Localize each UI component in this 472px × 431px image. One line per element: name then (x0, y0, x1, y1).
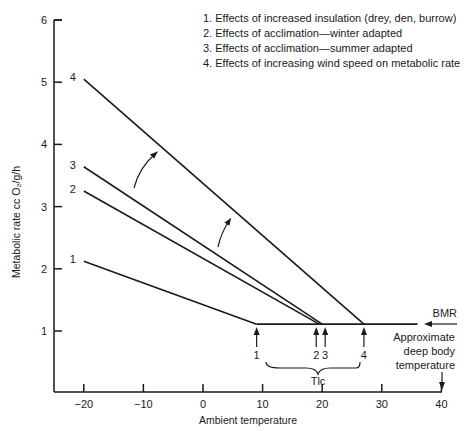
y-tick-label: 5 (41, 76, 47, 88)
series-label-4: 4 (70, 71, 76, 83)
y-tick-label: 2 (41, 263, 47, 275)
deep-body-temp-label-3: temperature (396, 359, 455, 371)
x-axis-title: Ambient temperature (199, 414, 297, 426)
legend-item-3: 3. Effects of acclimation—summer adapted (203, 42, 413, 54)
deep-body-temp-label-1: Approximate (393, 331, 455, 343)
x-axis: −20−10010203040 (54, 384, 448, 410)
legend: 1. Effects of increased insulation (drey… (203, 12, 460, 69)
lower-critical-temperature-markers: 1234 (254, 331, 367, 361)
series-lines: 1234 (70, 71, 364, 324)
legend-item-1: 1. Effects of increased insulation (drey… (203, 12, 456, 24)
tlc-marker-label-4: 4 (361, 349, 367, 361)
deep-body-temp-label-2: deep body (404, 345, 456, 357)
tlc-marker-label-2: 2 (313, 349, 319, 361)
legend-item-4: 4. Effects of increasing wind speed on m… (203, 57, 460, 69)
y-tick-label: 6 (41, 14, 47, 26)
y-axis-title: Metabolic rate cc O₂/g/h (10, 166, 22, 278)
series-label-2: 2 (70, 183, 76, 195)
y-axis: 123456 (41, 14, 62, 392)
x-tick-label: −10 (134, 398, 153, 410)
curved-arrow-icon (218, 221, 229, 247)
curved-arrow-icon (134, 154, 155, 188)
metabolic-rate-chart: 123456 −20−10010203040 Ambient temperatu… (0, 0, 472, 431)
tlc-marker-label-1: 1 (254, 349, 260, 361)
tlc-label: Tlc (311, 375, 326, 387)
x-tick-label: 0 (200, 398, 206, 410)
x-tick-label: 20 (316, 398, 328, 410)
x-tick-label: 10 (256, 398, 268, 410)
tlc-brace (266, 362, 360, 374)
x-tick-label: 40 (435, 398, 447, 410)
y-tick-label: 4 (41, 138, 47, 150)
series-line-1 (84, 261, 257, 324)
series-line-4 (84, 79, 364, 324)
series-label-1: 1 (70, 253, 76, 265)
series-label-3: 3 (70, 159, 76, 171)
series-line-3 (84, 167, 322, 324)
bmr-label: BMR (433, 307, 458, 319)
y-tick-label: 1 (41, 325, 47, 337)
legend-item-2: 2. Effects of acclimation—winter adapted (203, 27, 402, 39)
x-tick-label: −20 (74, 398, 93, 410)
x-tick-label: 30 (376, 398, 388, 410)
tlc-marker-label-3: 3 (322, 349, 328, 361)
y-tick-label: 3 (41, 201, 47, 213)
